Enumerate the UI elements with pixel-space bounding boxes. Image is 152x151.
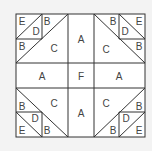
- label-br-b-right: B: [136, 101, 143, 112]
- label-tr-c: C: [102, 44, 109, 55]
- label-right-a: A: [116, 71, 123, 82]
- label-bl-b-left: B: [19, 101, 26, 112]
- label-tr-b-right: B: [136, 41, 143, 52]
- label-top-a: A: [78, 34, 85, 45]
- label-tl-d: D: [32, 26, 39, 37]
- label-center-f: F: [78, 71, 84, 82]
- label-bl-b-bottom: B: [44, 125, 51, 136]
- label-left-a: A: [39, 71, 46, 82]
- quilt-block-diagram: E D B B C B D E C B A A F A A C B D E B …: [0, 0, 152, 151]
- label-tl-b-top: B: [44, 16, 51, 27]
- label-bl-d: D: [31, 113, 38, 124]
- label-tr-d: D: [121, 26, 128, 37]
- label-br-e: E: [136, 125, 143, 136]
- label-tl-c: C: [50, 43, 57, 54]
- label-tr-b-top: B: [110, 16, 117, 27]
- label-br-c: C: [102, 98, 109, 109]
- label-bl-c: C: [50, 98, 57, 109]
- label-tr-e: E: [136, 16, 143, 27]
- label-br-b-bottom: B: [110, 125, 117, 136]
- label-br-d: D: [122, 113, 129, 124]
- label-tl-e: E: [19, 16, 26, 27]
- label-tl-b-left: B: [19, 41, 26, 52]
- label-bl-e: E: [19, 125, 26, 136]
- label-bottom-a: A: [78, 108, 85, 119]
